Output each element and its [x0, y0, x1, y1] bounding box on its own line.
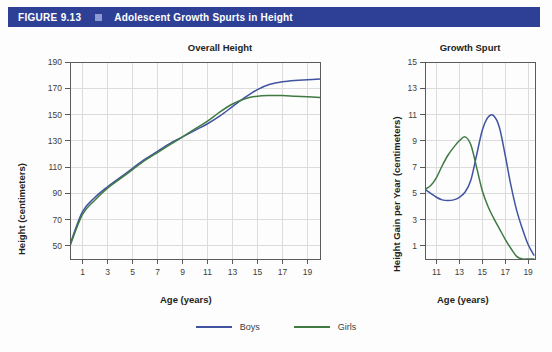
x-tick-label: 9 — [180, 267, 185, 277]
legend-label-boys: Boys — [240, 322, 260, 332]
chart-legend: Boys Girls — [0, 322, 552, 332]
chart-growth-spurt: 135791113151113151719 — [397, 52, 552, 292]
y-tick-label: 5 — [412, 188, 417, 198]
y-tick-label: 90 — [53, 188, 63, 198]
x-tick-label: 5 — [130, 267, 135, 277]
figure-header: FIGURE 9.13 Adolescent Growth Spurts in … — [8, 7, 540, 27]
y-tick-label: 150 — [48, 110, 62, 120]
legend-item-girls: Girls — [294, 322, 357, 332]
x-tick-label: 7 — [155, 267, 160, 277]
chart-overall-height: 507090110130150170190135791113151719 — [32, 52, 332, 292]
x-tick-label: 11 — [203, 267, 212, 277]
x-tick-label: 15 — [478, 267, 488, 277]
x-axis-label-growth-spurt: Age (years) — [437, 294, 489, 305]
x-tick-label: 19 — [523, 267, 533, 277]
x-tick-label: 15 — [253, 267, 263, 277]
figure-root: FIGURE 9.13 Adolescent Growth Spurts in … — [0, 0, 552, 352]
figure-marker-square — [95, 14, 102, 21]
x-axis-label-overall-height: Age (years) — [160, 294, 212, 305]
x-tick-label: 11 — [432, 267, 441, 277]
x-tick-label: 17 — [278, 267, 288, 277]
y-tick-label: 190 — [48, 57, 62, 67]
y-tick-label: 1 — [412, 241, 417, 251]
y-tick-label: 130 — [48, 136, 62, 146]
x-tick-label: 19 — [303, 267, 313, 277]
x-tick-label: 13 — [228, 267, 238, 277]
y-tick-label: 11 — [408, 110, 417, 120]
y-tick-label: 7 — [412, 162, 417, 172]
y-tick-label: 110 — [48, 162, 62, 172]
y-tick-label: 3 — [412, 215, 417, 225]
y-tick-label: 15 — [408, 57, 418, 67]
y-tick-label: 13 — [408, 83, 418, 93]
x-tick-label: 1 — [80, 267, 85, 277]
y-tick-label: 170 — [48, 83, 62, 93]
legend-swatch-girls — [294, 326, 330, 328]
x-tick-label: 13 — [455, 267, 465, 277]
x-tick-label: 3 — [105, 267, 110, 277]
legend-swatch-boys — [196, 326, 232, 328]
figure-number: FIGURE 9.13 — [18, 12, 81, 23]
legend-item-boys: Boys — [196, 322, 260, 332]
figure-title: Adolescent Growth Spurts in Height — [114, 12, 292, 23]
x-tick-label: 17 — [500, 267, 510, 277]
y-axis-label-overall-height: Height (centimeters) — [16, 163, 27, 255]
y-tick-label: 9 — [412, 136, 417, 146]
y-tick-label: 50 — [53, 241, 63, 251]
y-tick-label: 70 — [53, 215, 63, 225]
legend-label-girls: Girls — [338, 322, 357, 332]
